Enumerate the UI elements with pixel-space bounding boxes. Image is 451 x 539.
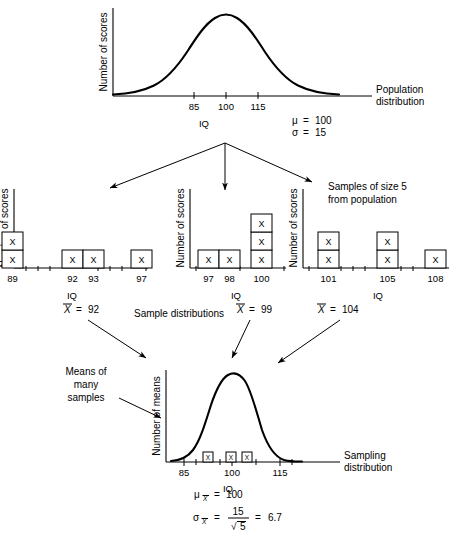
sample-2-x-mark: X — [205, 255, 211, 265]
statistics-diagram: 85 100 115 IQ Number of scores Populatio… — [0, 0, 451, 539]
sampling-sigma-subscript: X — [201, 518, 207, 525]
population-sigma-equals: = — [303, 127, 309, 138]
sample-3-x-mark: X — [325, 237, 331, 247]
population-tick-label-100: 100 — [218, 101, 234, 112]
means-note-line1: Means of — [65, 366, 106, 377]
sampling-tick-label-115: 115 — [272, 467, 287, 478]
sample-3-panel: Number of scores X X X X X 101 — [288, 189, 449, 301]
sampling-mean-x-mark: X — [229, 454, 234, 461]
arrow-to-sample-3 — [225, 143, 312, 182]
population-distribution-panel: 85 100 115 IQ Number of scores Populatio… — [98, 8, 424, 138]
sample-3-x-mark: X — [384, 237, 390, 247]
sampling-tick-label-100: 100 — [224, 467, 240, 478]
population-mu-equals: = — [303, 115, 309, 126]
sampling-mu-equals: = — [214, 489, 220, 500]
sample-2-y-axis-label: Number of scores — [175, 189, 186, 268]
sample-2-x-axis-label: IQ — [231, 290, 241, 301]
sampling-sqrt-icon: √ — [231, 521, 237, 532]
sampling-mean-x-mark: X — [245, 454, 250, 461]
arrow-to-sample-1 — [110, 143, 225, 188]
sample-2-tick-label-97: 97 — [203, 273, 214, 284]
samples-note-line2: from population — [328, 194, 397, 205]
population-mu-value: 100 — [315, 115, 332, 126]
population-caption-line1: Population — [376, 84, 423, 95]
means-note-line3: samples — [67, 392, 104, 403]
sample-1-x-mark: X — [9, 237, 15, 247]
sample-2-x-mark: X — [258, 237, 264, 247]
sample-3-mean-value: 104 — [342, 304, 359, 315]
sampling-tick-label-85: 85 — [179, 467, 190, 478]
sampling-sigma-radicand: 5 — [240, 521, 246, 532]
sample-1-x-mark: X — [69, 255, 75, 265]
sampling-mu-subscript: X — [202, 495, 208, 502]
sample-1-tick-label-89: 89 — [7, 273, 18, 284]
sample-3-tick-label-105: 105 — [380, 273, 396, 284]
sampling-caption-line2: distribution — [344, 462, 392, 473]
sample-2-x-mark: X — [226, 255, 232, 265]
sample-2-tick-label-98: 98 — [224, 273, 235, 284]
population-to-samples-arrows — [110, 143, 312, 190]
sampling-normal-curve — [171, 373, 302, 461]
sample-3-mean-equals: = — [330, 304, 336, 315]
arrow-from-sample-3 — [278, 320, 340, 363]
sample-2-mean-symbol: X — [236, 304, 244, 315]
sample-1-tick-label-97: 97 — [136, 273, 147, 284]
sampling-caption-line1: Sampling — [344, 450, 386, 461]
sample-distributions-caption: Sample distributions — [134, 308, 224, 319]
sampling-parameters: μ X = 100 σ X = 15 √ 5 = 6.7 — [193, 489, 282, 532]
population-normal-curve — [113, 15, 339, 95]
sampling-distribution-panel: Number of means X X X 85 100 115 IQ — [151, 370, 392, 494]
sample-1-tick-label-93: 93 — [88, 273, 99, 284]
sampling-sigma-symbol: σ — [193, 512, 200, 523]
sample-2-x-mark: X — [258, 255, 264, 265]
sample-1-mean-equals: = — [76, 304, 82, 315]
sample-1-x-axis-label: IQ — [67, 290, 77, 301]
sample-2-tick-label-100: 100 — [254, 273, 270, 284]
sample-means-row: X = 92 Sample distributions X = 99 X = 1… — [63, 304, 359, 319]
population-mu-symbol: μ — [292, 115, 298, 126]
samples-note-line1: Samples of size 5 — [328, 181, 407, 192]
sample-1-mean-symbol: X — [63, 304, 71, 315]
arrow-from-sample-2 — [232, 320, 250, 358]
sampling-mu-value: 100 — [226, 489, 243, 500]
sample-1-tick-label-92: 92 — [67, 273, 78, 284]
sampling-y-axis-label: Number of means — [151, 376, 162, 455]
sampling-sigma-equals-2: = — [255, 512, 261, 523]
population-x-axis-label: IQ — [199, 118, 209, 129]
population-caption-line2: distribution — [376, 96, 424, 107]
samples-to-sampling-arrows — [88, 320, 340, 363]
sample-2-x-mark: X — [258, 219, 264, 229]
sampling-mu-symbol: μ — [194, 489, 200, 500]
means-of-many-samples-note: Means of many samples — [65, 366, 161, 418]
sample-2-panel: Number of scores X X X X X 97 98 100 IQ — [175, 189, 286, 301]
sample-3-tick-label-101: 101 — [321, 273, 337, 284]
sample-3-x-axis-label: IQ — [373, 290, 383, 301]
sampling-sigma-equals: = — [214, 512, 220, 523]
sample-3-x-mark: X — [325, 255, 331, 265]
sample-1-panel: Number of scores X X X X — [0, 189, 152, 301]
means-note-line2: many — [74, 379, 98, 390]
sampling-mean-x-mark: X — [206, 454, 211, 461]
sampling-sigma-value: 6.7 — [268, 512, 282, 523]
sample-3-y-axis-label: Number of scores — [288, 189, 299, 268]
sample-2-mean-value: 99 — [261, 304, 273, 315]
sample-2-mean-equals: = — [249, 304, 255, 315]
sample-1-x-mark: X — [138, 255, 144, 265]
sample-1-mean-value: 92 — [88, 304, 100, 315]
sample-1-x-mark: X — [9, 255, 15, 265]
population-y-axis-label: Number of scores — [98, 13, 109, 92]
population-sigma-symbol: σ — [292, 127, 299, 138]
sample-3-mean-symbol: X — [317, 304, 325, 315]
arrow-from-sample-1 — [88, 320, 146, 358]
samples-size-note: Samples of size 5 from population — [328, 181, 407, 205]
sample-1-x-mark: X — [90, 255, 96, 265]
population-tick-label-115: 115 — [250, 101, 265, 112]
figure-canvas: 85 100 115 IQ Number of scores Populatio… — [0, 0, 451, 539]
sample-3-x-mark: X — [432, 255, 438, 265]
population-sigma-value: 15 — [315, 127, 327, 138]
sample-3-x-mark: X — [384, 255, 390, 265]
sampling-sigma-numerator: 15 — [232, 506, 244, 517]
sample-3-tick-label-108: 108 — [428, 273, 444, 284]
population-tick-label-85: 85 — [189, 101, 200, 112]
